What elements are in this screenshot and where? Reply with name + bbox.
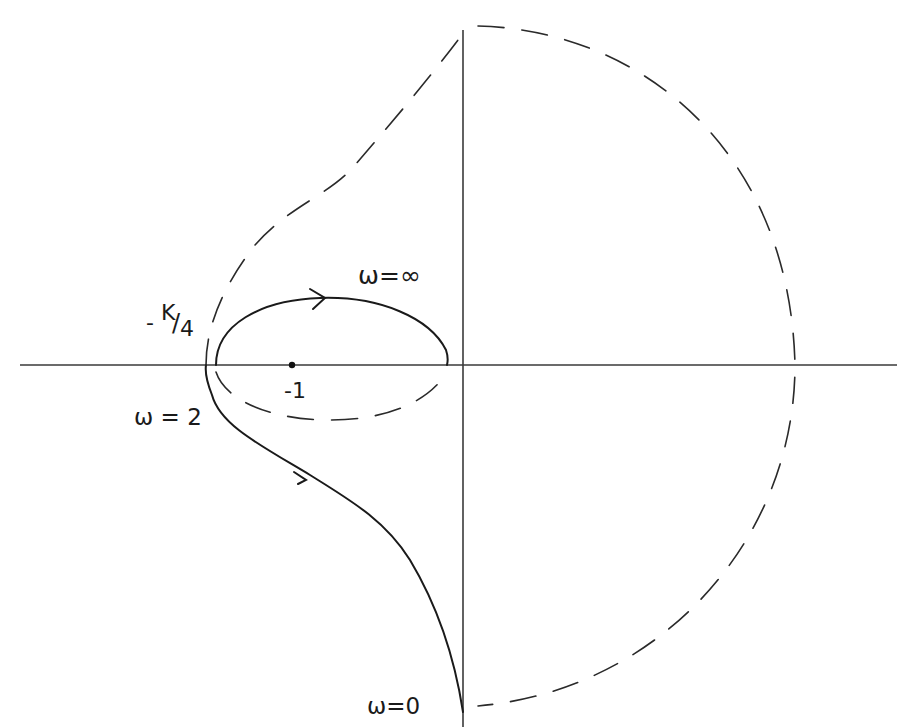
svg-text:4: 4 xyxy=(180,316,194,341)
label-omega-infinity: ω=∞ xyxy=(358,261,421,290)
solid-loop xyxy=(216,298,448,365)
nyquist-diagram: ω=∞ - K / 4 -1 ω = 2 ω=0 xyxy=(0,0,904,727)
dashed-curve-upper xyxy=(206,40,458,365)
solid-curve-lower xyxy=(206,365,463,712)
dashed-loop-lower xyxy=(216,372,447,420)
svg-text:-: - xyxy=(146,310,154,335)
label-omega-0: ω=0 xyxy=(367,693,420,719)
dashed-semicircle xyxy=(478,26,795,706)
label-k-over-4: - K / 4 xyxy=(146,300,194,341)
arrow-icon-lower xyxy=(294,472,306,484)
label-omega-2: ω = 2 xyxy=(134,404,202,430)
label-minus-one: -1 xyxy=(284,378,306,403)
critical-point-marker xyxy=(289,362,295,368)
